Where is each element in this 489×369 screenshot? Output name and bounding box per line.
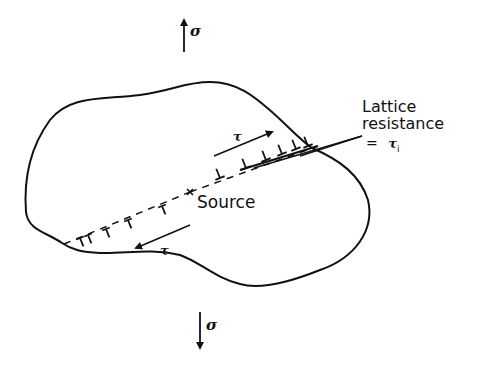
lattice-equation: = τi [366,136,399,154]
grain-outline [26,82,370,286]
tau-i-subscript: i [397,144,400,154]
source-label: Source [197,194,255,211]
pileup-line [240,146,318,170]
lattice-resistance-label: Lattice resistance [362,98,444,132]
lattice-label-line1: Lattice [362,98,444,115]
tau-lower-label: τ [160,244,169,257]
tau-i-symbol: τ [388,136,397,151]
equals-sign: = [366,135,378,151]
lattice-label-line2: resistance [362,115,444,132]
dislocations-lower-left [76,205,169,248]
diagram-canvas [0,0,489,369]
sigma-top-label: σ [190,24,201,39]
tau-upper-label: τ [233,130,242,143]
dislocations-upper-right [212,135,313,180]
sigma-bottom-label: σ [206,318,217,333]
